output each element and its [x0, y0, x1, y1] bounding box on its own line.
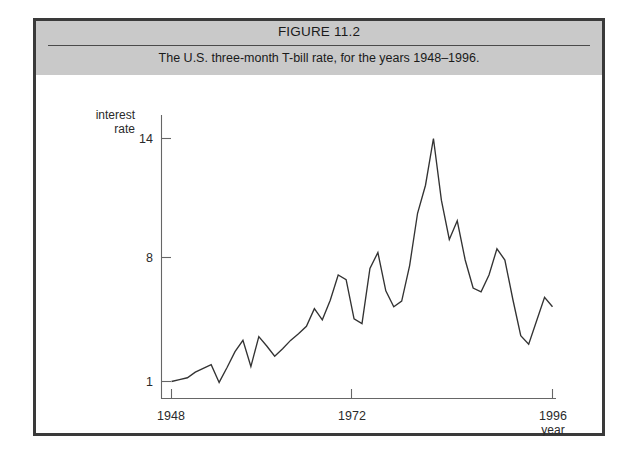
x-tick-label-1972: 1972	[338, 409, 366, 423]
line-chart: 14 8 1 interest rate 1948 1972 1996 year	[36, 75, 602, 436]
series-line-tbill-rate	[172, 139, 553, 383]
x-axis-title: year	[541, 423, 564, 436]
y-axis-title-line2: rate	[114, 122, 135, 136]
y-tick-group	[162, 139, 172, 382]
y-tick-label-1: 1	[146, 375, 153, 389]
plot-area: 14 8 1 interest rate 1948 1972 1996 year	[36, 75, 602, 433]
y-tick-label-14: 14	[139, 132, 153, 146]
figure-caption-band: FIGURE 11.2 The U.S. three-month T-bill …	[36, 21, 602, 75]
caption-divider	[48, 45, 590, 46]
x-tick-group	[172, 389, 553, 399]
figure-subtitle: The U.S. three-month T-bill rate, for th…	[36, 51, 602, 65]
x-tick-label-1948: 1948	[157, 409, 185, 423]
y-axis-title-line1: interest	[96, 108, 136, 122]
figure-title: FIGURE 11.2	[36, 24, 602, 39]
figure-root: FIGURE 11.2 The U.S. three-month T-bill …	[0, 0, 642, 461]
figure-frame: FIGURE 11.2 The U.S. three-month T-bill …	[33, 18, 605, 436]
x-tick-label-1996: 1996	[539, 409, 567, 423]
y-tick-label-8: 8	[146, 251, 153, 265]
